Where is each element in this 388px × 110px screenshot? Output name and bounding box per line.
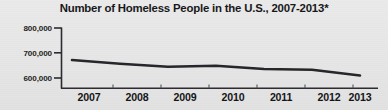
x-tick-label-2013: 2013 (337, 91, 383, 103)
x-tick-label-2010: 2010 (210, 91, 256, 103)
data-series-line (72, 60, 360, 76)
x-tick-label-2011: 2011 (258, 91, 304, 103)
chart-container: Number of Homeless People in the U.S., 2… (0, 0, 388, 110)
x-tick-label-2007: 2007 (66, 91, 112, 103)
x-tick-label-2008: 2008 (114, 91, 160, 103)
x-tick-label-2009: 2009 (162, 91, 208, 103)
